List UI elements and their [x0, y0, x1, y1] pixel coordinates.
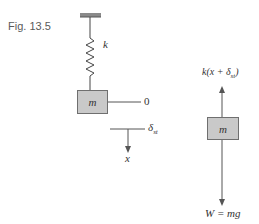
static-deflection-label: δst: [148, 121, 158, 136]
diagram-lines: [0, 0, 259, 224]
spring-constant-label: k: [103, 38, 108, 50]
weight-arrow-icon: [219, 199, 225, 206]
ceiling-support-icon: [80, 13, 101, 17]
x-axis-label: x: [125, 152, 130, 164]
equilibrium-label: 0: [144, 95, 150, 107]
mass-block: m: [77, 90, 108, 114]
spring-force-arrow-icon: [219, 86, 225, 93]
spring-force-label: k(x + δst): [202, 66, 239, 80]
spring: [86, 17, 94, 90]
fbd-mass-block: m: [207, 117, 239, 140]
weight-label: W = mg: [205, 207, 241, 219]
mass-label: m: [89, 96, 97, 108]
fbd-mass-label: m: [219, 123, 227, 135]
